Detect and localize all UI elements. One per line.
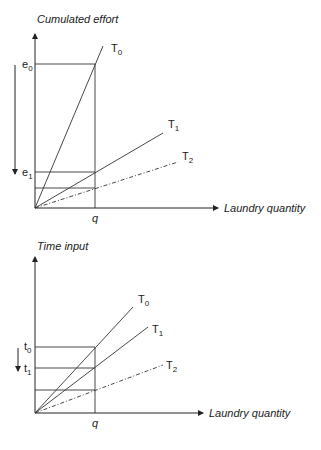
bottom-diagram: Time input Laundry quantity q t0 t1 T0 T… <box>18 240 292 429</box>
bottom-t0-level-label: t0 <box>24 340 32 355</box>
top-e1-label: e1 <box>22 166 33 181</box>
top-diagram: Cumulated effort Laundry quantity q e0 e… <box>15 13 307 224</box>
bottom-t2-label: T2 <box>166 359 178 374</box>
bottom-q-label: q <box>92 417 99 429</box>
bottom-x-axis-label: Laundry quantity <box>209 407 292 419</box>
top-t2-label: T2 <box>182 150 194 165</box>
top-e0-label: e0 <box>22 58 33 73</box>
bottom-t2-ray <box>35 365 163 413</box>
bottom-t0-label: T0 <box>138 293 150 308</box>
top-x-axis-label: Laundry quantity <box>224 202 307 214</box>
top-t0-label: T0 <box>111 42 123 57</box>
top-q-label: q <box>92 212 99 224</box>
bottom-t0-ray <box>35 307 133 413</box>
bottom-y-axis-label: Time input <box>37 240 89 252</box>
diagram-canvas: Cumulated effort Laundry quantity q e0 e… <box>0 0 321 450</box>
top-t2-ray <box>35 162 178 208</box>
top-y-axis-label: Cumulated effort <box>37 13 119 25</box>
bottom-t1-label: T1 <box>152 323 164 338</box>
bottom-t1-level-label: t1 <box>24 362 32 377</box>
top-t0-ray <box>35 46 103 208</box>
top-t1-ray <box>35 133 163 208</box>
top-t1-label: T1 <box>168 118 180 133</box>
bottom-t1-ray <box>35 327 148 413</box>
